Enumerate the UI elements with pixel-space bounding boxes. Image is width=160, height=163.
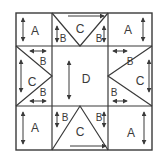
label-b: B — [96, 33, 103, 44]
label-c: C — [76, 22, 85, 36]
label-c: C — [136, 74, 145, 88]
label-c: C — [76, 125, 85, 139]
label-b: B — [111, 87, 118, 98]
quilt-block-diagram: A A A A C B B B C B B C B — [0, 0, 160, 163]
label-a: A — [124, 23, 132, 37]
label-b: B — [60, 33, 67, 44]
label-a: A — [31, 24, 39, 38]
label-d: D — [82, 72, 91, 86]
label-b: B — [40, 56, 47, 67]
label-a: A — [31, 121, 39, 135]
label-c: C — [28, 75, 37, 89]
label-b: B — [96, 112, 103, 123]
label-b: B — [40, 87, 47, 98]
label-b: B — [127, 56, 134, 67]
label-a: A — [127, 126, 135, 140]
label-b: B — [62, 112, 69, 123]
